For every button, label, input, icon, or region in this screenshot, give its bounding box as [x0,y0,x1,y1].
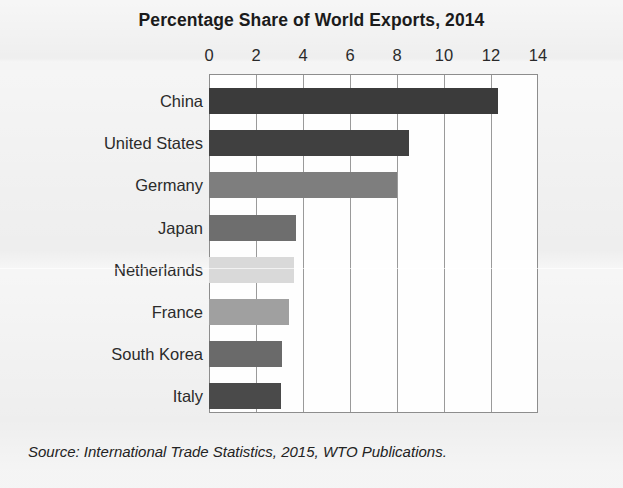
bar-china [209,88,498,114]
bar-row: France [0,299,623,325]
x-tick-label-4: 4 [298,46,307,65]
bar-south-korea [209,341,282,367]
category-label-netherlands: Netherlands [0,257,203,283]
bar-italy [209,383,281,409]
category-label-germany: Germany [0,172,203,198]
bar-row: China [0,88,623,114]
x-tick-label-14: 14 [529,46,547,65]
bar-united-states [209,130,409,156]
bar-japan [209,215,296,241]
bar-row: United States [0,130,623,156]
category-label-south-korea: South Korea [0,341,203,367]
chart-title: Percentage Share of World Exports, 2014 [0,10,623,31]
bar-france [209,299,289,325]
bar-chart-figure: Percentage Share of World Exports, 2014 … [0,0,623,488]
x-tick-label-6: 6 [345,46,354,65]
bar-germany [209,172,397,198]
bar-row: Japan [0,215,623,241]
x-tick-label-0: 0 [204,46,213,65]
category-label-italy: Italy [0,383,203,409]
x-tick-label-10: 10 [435,46,453,65]
category-label-japan: Japan [0,215,203,241]
category-label-united-states: United States [0,130,203,156]
bar-row: Germany [0,172,623,198]
bar-row: Netherlands [0,257,623,283]
x-tick-label-2: 2 [251,46,260,65]
category-label-china: China [0,88,203,114]
x-tick-label-12: 12 [482,46,500,65]
bar-row: Italy [0,383,623,409]
bars-layer: ChinaUnited StatesGermanyJapanNetherland… [0,74,623,413]
category-label-france: France [0,299,203,325]
x-tick-label-8: 8 [392,46,401,65]
bar-netherlands [209,257,294,283]
bar-row: South Korea [0,341,623,367]
x-axis-tick-labels: 02468101214 [0,46,623,68]
source-note: Source: International Trade Statistics, … [28,443,447,460]
